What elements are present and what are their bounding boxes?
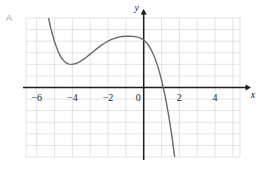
figure-container: A −6−4−2024 xy	[0, 0, 271, 170]
x-tick-label: −6	[31, 92, 42, 103]
panel-label: A	[6, 14, 12, 23]
y-axis-arrowhead	[141, 9, 147, 15]
y-axis-label: y	[133, 2, 139, 13]
x-axis-label: x	[250, 89, 256, 100]
x-tick-label: −4	[67, 92, 78, 103]
x-tick-label: 0	[136, 92, 141, 103]
x-tick-label: −2	[103, 92, 114, 103]
x-tick-label: 4	[213, 92, 218, 103]
x-tick-label: 2	[177, 92, 182, 103]
cartesian-plot: −6−4−2024 xy	[0, 0, 271, 170]
